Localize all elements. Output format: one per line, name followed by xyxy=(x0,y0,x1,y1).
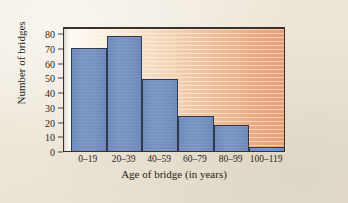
y-tick-label: 40 xyxy=(45,88,55,99)
y-axis: Number of bridges 01020304050607080 xyxy=(0,27,63,152)
histogram-bar xyxy=(107,36,143,151)
y-tick-label: 70 xyxy=(45,44,55,55)
x-tick-label: 60–79 xyxy=(183,154,207,164)
histogram-bar xyxy=(249,147,285,151)
x-tick-label: 100–119 xyxy=(250,154,283,164)
y-tick-label: 80 xyxy=(45,29,55,40)
chart-page: Number of bridges 01020304050607080 0–19… xyxy=(0,0,348,203)
x-tick-label: 0–19 xyxy=(78,154,97,164)
y-tick-label: 10 xyxy=(45,132,55,143)
y-tick-label: 20 xyxy=(45,117,55,128)
plot-frame xyxy=(63,27,285,152)
histogram-bar xyxy=(214,125,250,151)
x-tick-label: 40–59 xyxy=(147,154,171,164)
histogram-bar xyxy=(71,48,107,151)
y-axis-title: Number of bridges xyxy=(15,3,27,123)
plot-area xyxy=(71,29,284,151)
histogram-bar xyxy=(178,116,214,151)
histogram-bar xyxy=(142,79,178,151)
x-tick-label: 80–99 xyxy=(219,154,243,164)
y-tick-label: 60 xyxy=(45,58,55,69)
y-tick-label: 0 xyxy=(50,147,55,158)
x-axis-tick-labels: 0–1920–3940–5960–7980–99100–119 xyxy=(70,154,285,168)
plot-left-shading xyxy=(64,29,71,151)
y-tick-label: 30 xyxy=(45,102,55,113)
x-tick-label: 20–39 xyxy=(112,154,136,164)
x-axis-title: Age of bridge (in years) xyxy=(63,168,285,180)
y-tick-label: 50 xyxy=(45,73,55,84)
